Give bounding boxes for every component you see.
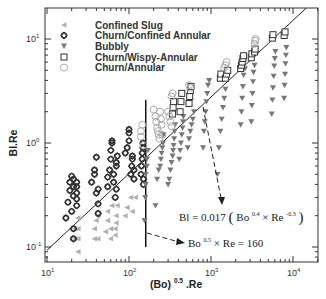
x-tick-label: 103 [205, 267, 219, 278]
svg-text:Bl = 0.017 ( Bo: Bl = 0.017 ( Bo 0.4 × Re -0.3 ) [179, 206, 303, 226]
data-point [179, 132, 185, 137]
data-point [69, 209, 74, 214]
eq1-close-paren: ) [298, 209, 303, 226]
x-axis-title: (Bo) 0.5 .Re [150, 273, 202, 290]
data-point [270, 32, 276, 38]
data-point [238, 122, 244, 127]
data-point [129, 209, 134, 214]
data-point [166, 177, 172, 182]
legend-item: Churn/Confined Annular [61, 30, 211, 41]
data-point [180, 119, 186, 124]
data-point [186, 100, 192, 106]
data-point [201, 129, 207, 134]
x-tick-label: 102 [123, 267, 137, 278]
data-point [177, 148, 183, 153]
data-point [113, 195, 118, 200]
data-point [154, 177, 160, 182]
legend-label: Bubbly [95, 41, 129, 52]
data-point [171, 143, 177, 148]
data-point [272, 56, 278, 61]
data-point [222, 87, 228, 92]
data-point [114, 203, 119, 208]
dashed-arrow-threshold [147, 233, 179, 242]
data-point [65, 200, 70, 205]
data-point [165, 182, 171, 187]
data-point [219, 117, 225, 122]
data-point [177, 109, 183, 115]
data-point [93, 218, 98, 223]
data-point [204, 91, 210, 96]
data-point [94, 155, 99, 160]
data-point [122, 213, 127, 218]
data-point [187, 129, 193, 134]
data-point [206, 78, 212, 83]
data-point [92, 226, 97, 231]
data-point [282, 72, 288, 77]
data-point [113, 213, 118, 218]
eq1-bo-exp: 0.4 [252, 211, 260, 217]
x-axis-title-main: (Bo) [150, 278, 171, 290]
data-point [239, 96, 245, 101]
eq1-main: Bl = 0.017 [179, 211, 226, 223]
legend-label: Confined Slug [95, 20, 163, 31]
data-point [105, 209, 110, 214]
data-point [269, 112, 275, 117]
arrowhead-fit-icon [218, 197, 225, 205]
data-point [200, 145, 206, 150]
x-tick-label: 104 [287, 267, 301, 278]
data-point [167, 168, 173, 173]
legend-marker-icon [61, 22, 66, 27]
data-point [170, 154, 176, 159]
data-point [159, 151, 165, 156]
data-point [202, 119, 208, 124]
eq1-re-exp: -0.3 [286, 211, 296, 217]
data-point [125, 145, 130, 150]
data-point [252, 63, 258, 68]
data-point [139, 121, 146, 128]
legend-item: Bubbly [61, 41, 129, 52]
eq2-tail: × Re = 160 [214, 237, 264, 249]
legend-marker-icon [61, 44, 67, 49]
annotation-threshold-equation: Bo 0.5 × Re = 160 [147, 232, 264, 249]
data-point [178, 141, 184, 146]
legend-label: Churn/Wispy-Annular [95, 52, 198, 63]
data-point [283, 53, 289, 58]
data-point [271, 74, 277, 79]
data-point [159, 145, 165, 150]
data-point [238, 109, 244, 114]
data-point [249, 103, 255, 108]
data-point [157, 108, 164, 115]
series-churn-confined-annular [63, 126, 147, 241]
data-point [74, 196, 79, 201]
legend-item: Churn/Annular [61, 62, 166, 73]
data-point [63, 215, 68, 220]
data-point [105, 175, 110, 180]
data-point [113, 220, 118, 225]
data-point [150, 106, 157, 113]
eq1-bo: Bo [236, 211, 249, 223]
data-point [189, 122, 195, 127]
data-point [140, 150, 145, 155]
data-point [132, 195, 137, 200]
data-point [108, 236, 113, 241]
svg-text:Bo 0.5 × Re = 160: Bo 0.5 × Re = 160 [188, 232, 264, 249]
arrowhead-threshold-icon [176, 238, 185, 245]
data-point [185, 145, 191, 150]
data-point [89, 180, 94, 185]
legend-label: Churn/Confined Annular [95, 30, 211, 41]
y-tick-label: 10-1 [26, 241, 42, 252]
data-point [205, 83, 211, 88]
data-point [250, 79, 256, 84]
data-point [107, 167, 112, 172]
data-point [282, 61, 288, 66]
eq1-times-re: × Re [262, 211, 283, 223]
data-point [170, 148, 176, 153]
data-point [169, 160, 175, 165]
legend-label: Churn/Annular [95, 62, 165, 73]
data-point [109, 203, 114, 208]
data-point [108, 157, 113, 162]
eq2-bo: Bo [188, 237, 201, 249]
y-tick-label: 100 [26, 137, 40, 148]
data-point [179, 90, 185, 96]
data-point [180, 125, 186, 130]
